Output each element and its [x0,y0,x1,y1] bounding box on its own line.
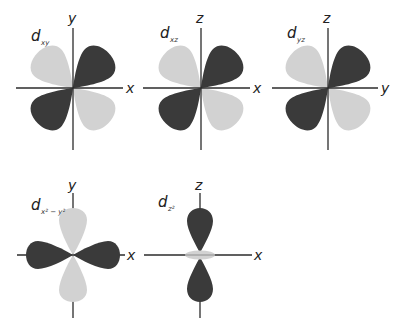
d-orbitals-diagram: x y d xy x z d xz y z d yz [0,0,402,333]
lobe-dark-w [26,241,73,269]
panel-dxz: x z d xz [143,10,262,150]
y-axis-label: y [380,80,390,96]
panel-dxy: x y d xy [16,10,135,150]
orbital-dx2-y2-lobes [26,208,120,302]
z-axis-label: z [195,10,204,26]
lobe-light-s [59,255,87,302]
panel-dz2: x z d z² [144,177,263,318]
x-axis-label: x [252,80,262,96]
orbital-label-main: d [158,193,168,211]
orbital-label-main: d [287,24,297,42]
y-axis-label: y [67,177,77,193]
orbital-label-subscript: z² [167,205,175,213]
panel-dyz: y z d yz [272,10,390,150]
y-axis-label: y [67,10,77,26]
z-axis-label: z [322,10,331,26]
orbital-label-subscript: yz [296,36,305,44]
x-axis-label: x [253,247,263,263]
orbital-label-subscript: x² − y² [40,208,65,216]
lobe-dark-s [187,257,213,302]
x-axis-label: x [126,247,136,263]
orbital-label-main: d [31,27,41,45]
orbital-label-main: d [160,24,170,42]
x-axis-label: x [125,80,135,96]
orbital-label-main: d [31,196,41,214]
lobe-dark-e [73,241,120,269]
z-axis-label: z [194,177,203,193]
lobe-dark-n [187,208,213,253]
orbital-label-subscript: xy [40,39,50,47]
panel-dx2-y2: x y d x² − y² [17,177,136,318]
orbital-label-subscript: xz [169,36,178,44]
